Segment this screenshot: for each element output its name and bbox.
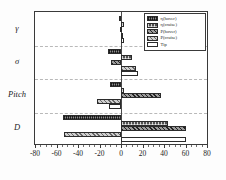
bar	[111, 60, 121, 65]
bar	[121, 137, 186, 142]
legend-item: Tip	[147, 42, 203, 48]
y-axis-label-2: Pitch	[2, 89, 32, 99]
bar	[121, 38, 124, 43]
x-axis-minor-tick	[148, 145, 149, 147]
bar	[63, 115, 121, 120]
x-axis-tick	[186, 145, 187, 148]
x-axis-tick	[78, 145, 79, 148]
x-axis-minor-tick	[51, 145, 52, 147]
x-axis-minor-tick	[191, 145, 192, 147]
x-axis-minor-tick	[180, 145, 181, 147]
x-axis-minor-tick	[73, 145, 74, 147]
x-axis-tick-label: -60	[52, 149, 62, 158]
x-axis-minor-tick	[83, 145, 84, 147]
x-axis-minor-tick	[159, 145, 160, 147]
bar	[121, 66, 136, 71]
x-axis-minor-tick	[94, 145, 95, 147]
x-axis-tick-label: 0	[119, 149, 123, 158]
x-axis-minor-tick	[132, 145, 133, 147]
x-axis-tick-label: -80	[30, 149, 40, 158]
x-axis-tick	[121, 145, 122, 148]
chart-figure: γσPitchD -80-60-40-20020406080 η(hover)η…	[0, 0, 226, 180]
x-axis-tick-label: 40	[160, 149, 168, 158]
x-axis-minor-tick	[126, 145, 127, 147]
x-axis-minor-tick	[153, 145, 154, 147]
legend-swatch	[147, 23, 158, 28]
y-axis-label-0: γ	[2, 23, 32, 33]
legend-label: η(cruise)	[161, 23, 177, 28]
bar	[121, 55, 132, 60]
x-axis: -80-60-40-20020406080	[34, 145, 208, 161]
x-axis-minor-tick	[169, 145, 170, 147]
bar	[121, 22, 124, 27]
legend-item: η(hover)	[147, 16, 203, 22]
legend-label: Tip	[161, 43, 167, 48]
x-axis-tick-label: 80	[203, 149, 211, 158]
x-axis-minor-tick	[46, 145, 47, 147]
y-axis-label-1: σ	[2, 56, 32, 66]
legend-item: P(cruise)	[147, 35, 203, 41]
bar	[121, 126, 186, 131]
bar	[110, 82, 121, 87]
bar	[121, 71, 138, 76]
x-axis-tick	[35, 145, 36, 148]
legend-label: P(hover)	[161, 30, 177, 35]
x-axis-minor-tick	[116, 145, 117, 147]
bar	[64, 132, 121, 137]
bar	[121, 33, 123, 38]
x-axis-tick	[100, 145, 101, 148]
legend-item: P(hover)	[147, 29, 203, 35]
legend: η(hover)η(cruise)P(hover)P(cruise)Tip	[144, 13, 206, 51]
x-axis-minor-tick	[175, 145, 176, 147]
x-axis-tick	[207, 145, 208, 148]
legend-label: η(hover)	[161, 17, 177, 22]
x-axis-tick-label: 60	[182, 149, 190, 158]
bar	[121, 88, 124, 93]
bar	[97, 99, 121, 104]
x-axis-minor-tick	[110, 145, 111, 147]
x-axis-minor-tick	[40, 145, 41, 147]
bar	[121, 93, 161, 98]
legend-swatch	[147, 36, 158, 41]
x-axis-minor-tick	[137, 145, 138, 147]
x-axis-tick	[164, 145, 165, 148]
bar	[120, 27, 122, 32]
legend-item: η(cruise)	[147, 22, 203, 28]
x-axis-tick-label: -40	[73, 149, 83, 158]
bar	[108, 49, 121, 54]
x-axis-tick	[143, 145, 144, 148]
x-axis-tick	[57, 145, 58, 148]
legend-label: P(cruise)	[161, 36, 178, 41]
bar	[109, 104, 121, 109]
legend-swatch	[147, 29, 158, 34]
x-axis-minor-tick	[89, 145, 90, 147]
bar	[121, 121, 168, 126]
y-axis-label-3: D	[2, 122, 32, 132]
x-axis-minor-tick	[62, 145, 63, 147]
x-axis-tick-label: 20	[139, 149, 147, 158]
x-axis-tick-label: -20	[95, 149, 105, 158]
x-axis-minor-tick	[196, 145, 197, 147]
x-axis-minor-tick	[105, 145, 106, 147]
bar	[119, 16, 121, 21]
legend-swatch	[147, 16, 158, 21]
x-axis-minor-tick	[67, 145, 68, 147]
legend-swatch	[147, 42, 158, 47]
x-axis-minor-tick	[202, 145, 203, 147]
